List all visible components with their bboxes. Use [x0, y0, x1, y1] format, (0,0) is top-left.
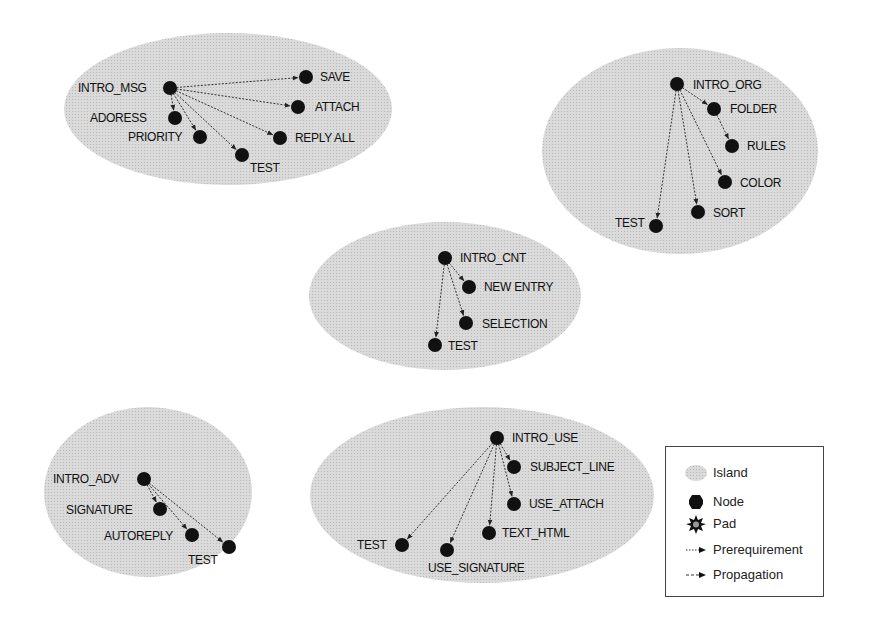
- node-label: COLOR: [740, 176, 782, 190]
- node-icon: [490, 431, 504, 445]
- node-icon: [718, 175, 732, 189]
- node-icon: [163, 81, 177, 95]
- node-label: RULES: [747, 139, 786, 153]
- legend-item-node: Node: [666, 492, 823, 512]
- node-icon: [725, 139, 739, 153]
- node-icon: [462, 280, 476, 294]
- node-label: REPLY ALL: [295, 131, 355, 145]
- node-label: INTRO_MSG: [78, 81, 147, 95]
- node-icon: [670, 77, 684, 91]
- node-label: TEST: [357, 538, 387, 552]
- node-label: SORT: [713, 206, 746, 220]
- node-attach[interactable]: ATTACH: [291, 100, 359, 114]
- node-test-use[interactable]: TEST: [357, 538, 409, 552]
- prerequirement-arrow-icon: [684, 540, 712, 560]
- node-sort[interactable]: SORT: [691, 205, 746, 220]
- node-icon: [291, 100, 305, 114]
- node-icon: [235, 148, 249, 162]
- node-save[interactable]: SAVE: [299, 70, 350, 84]
- node-icon: [428, 338, 442, 352]
- node-label: SELECTION: [482, 317, 547, 331]
- node-label: SUBJECT_LINE: [530, 460, 615, 474]
- legend-label: Prerequirement: [713, 542, 803, 557]
- node-icon: [482, 526, 496, 540]
- node-icon: [193, 130, 207, 144]
- island-use: [310, 407, 654, 583]
- propagation-arrow-icon: [684, 565, 712, 585]
- node-icon: [438, 251, 452, 265]
- node-icon: [507, 460, 521, 474]
- node-label: TEST: [448, 339, 478, 353]
- legend-label: Island: [713, 465, 748, 480]
- node-label: ADORESS: [90, 111, 147, 125]
- legend-item-propagation: Propagation: [666, 565, 823, 585]
- node-icon: [691, 205, 705, 219]
- legend-label: Propagation: [713, 567, 783, 582]
- island-icon: [684, 463, 712, 483]
- pad-icon: [684, 514, 712, 534]
- node-label: SIGNATURE: [66, 503, 133, 517]
- legend-label: Pad: [713, 516, 736, 531]
- node-color[interactable]: COLOR: [718, 175, 782, 190]
- node-icon: [222, 540, 236, 554]
- node-test-cnt[interactable]: TEST: [428, 338, 478, 353]
- node-label: INTRO_ADV: [53, 472, 119, 486]
- node-label: FOLDER: [730, 102, 778, 116]
- node-priority[interactable]: PRIORITY: [128, 130, 207, 144]
- node-rules[interactable]: RULES: [725, 139, 786, 153]
- node-icon: [684, 492, 712, 512]
- node-icon: [649, 219, 663, 233]
- node-icon: [395, 538, 409, 552]
- node-icon: [153, 502, 167, 516]
- island-cnt: [309, 222, 581, 370]
- node-icon: [507, 497, 521, 511]
- legend: Island Node Pad Prerequirement Propagati…: [665, 446, 824, 597]
- node-label: INTRO_USE: [512, 431, 578, 445]
- node-label: SAVE: [320, 70, 350, 84]
- node-label: USE_ATTACH: [529, 497, 604, 511]
- node-label: TEST: [250, 161, 280, 175]
- node-icon: [299, 70, 313, 84]
- node-label: TEXT_HTML: [502, 526, 570, 540]
- node-icon: [137, 472, 151, 486]
- legend-label: Node: [713, 494, 744, 509]
- node-icon: [168, 111, 182, 125]
- legend-item-pad: Pad: [666, 514, 823, 534]
- node-label: USE_SIGNATURE: [428, 561, 525, 575]
- node-label: AUTOREPLY: [104, 529, 173, 543]
- node-label: TEST: [615, 216, 645, 230]
- node-folder[interactable]: FOLDER: [707, 102, 778, 116]
- node-label: TEST: [188, 553, 218, 567]
- node-label: INTRO_ORG: [693, 78, 762, 92]
- node-label: PRIORITY: [128, 130, 183, 144]
- node-icon: [440, 543, 454, 557]
- node-label: INTRO_CNT: [460, 251, 527, 265]
- node-icon: [273, 131, 287, 145]
- legend-item-prerequirement: Prerequirement: [666, 540, 823, 560]
- node-label: ATTACH: [315, 100, 359, 114]
- legend-item-island: Island: [666, 463, 823, 483]
- node-icon: [707, 102, 721, 116]
- node-icon: [459, 316, 473, 330]
- node-label: NEW ENTRY: [484, 280, 553, 294]
- node-icon: [185, 528, 199, 542]
- island-adv: [44, 407, 252, 577]
